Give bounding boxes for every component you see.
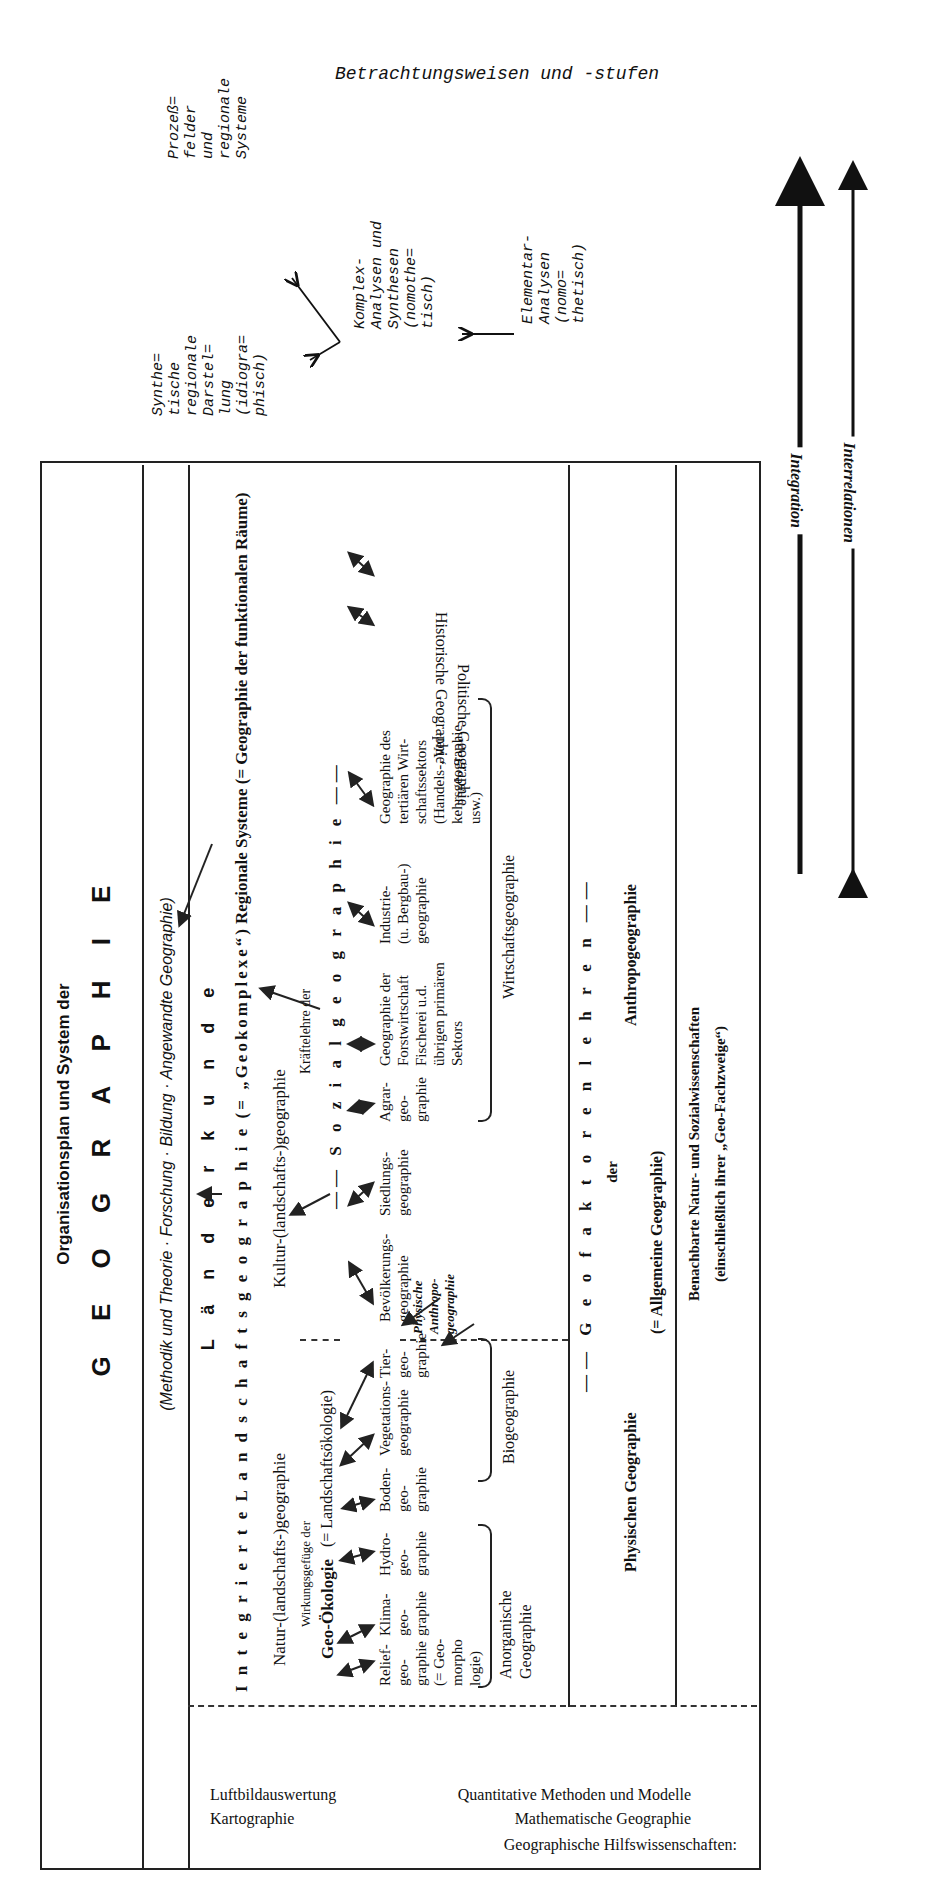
- arrow-komplex-synthetisch: [310, 342, 340, 360]
- arrow-komplex-prozess: [292, 278, 340, 342]
- annotation-arrows: [0, 0, 929, 1904]
- diagram-canvas: Organisationsplan und System der G E O G…: [0, 0, 929, 1904]
